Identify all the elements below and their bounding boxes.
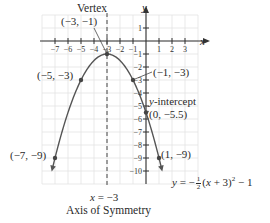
y-tick-label: −1 [133,50,142,59]
equation-fraction: 12 [196,176,202,191]
vertex-coords-label: (−3, −1) [61,16,97,27]
data-point [53,156,57,160]
x-tick-label: −2 [116,45,125,54]
y-tick-label: −9 [133,154,142,163]
y-tick-label: −6 [133,115,142,124]
point-label-minus7: (−7, −9) [10,150,46,161]
y-tick-label: −5 [133,102,142,111]
data-point [79,78,83,82]
axis-of-symmetry-equation: x = −3 [90,192,118,203]
y-tick-label: −8 [133,141,142,150]
y-tick-label: −2 [133,63,142,72]
y-intercept-coords-label: (0, −5.5) [149,109,187,120]
y-tick-label: −3 [133,76,142,85]
x-tick-label: 3 [183,45,187,54]
y-tick-label: −7 [133,128,142,137]
x-tick-label: −5 [77,45,86,54]
y-intercept-title: y-intercept [149,96,196,107]
x-tick-label: −4 [90,45,99,54]
x-tick-label: 1 [157,45,161,54]
point-label-minus1: (−1, −3) [153,67,189,78]
y-tick-label: −10 [129,167,142,176]
y-tick-label: 1 [138,24,142,33]
x-tick-label: −6 [64,45,73,54]
data-point [144,110,148,114]
x-tick-label: −7 [51,45,60,54]
point-label-1: (1, −9) [161,149,191,160]
vertex-title: Vertex [77,3,107,15]
axis-of-symmetry-label: Axis of Symmetry [66,205,151,217]
x-axis-label: x [200,36,205,47]
x-tick-label: −3 [103,45,112,54]
x-tick-label: 2 [170,45,174,54]
y-axis-label: y [142,2,147,13]
y-intercept-text: -intercept [154,95,196,107]
y-tick-label: −4 [133,89,142,98]
equation-label: y = −12(x + 3)2 − 1 [172,176,252,191]
point-label-minus5: (−5, −3) [37,70,73,81]
